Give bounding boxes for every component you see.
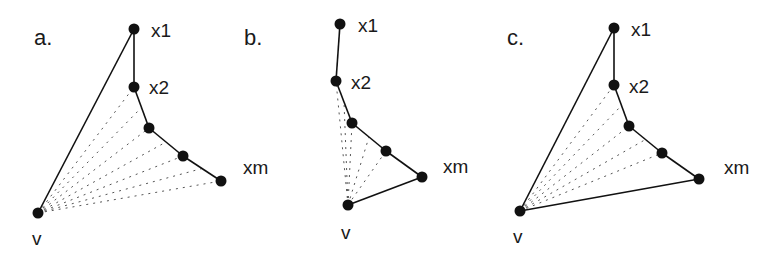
node-x1: [335, 19, 346, 30]
edge-x2-p3: [336, 81, 352, 123]
dotted-line-v-x2: [336, 81, 348, 205]
node-p4: [178, 151, 189, 162]
dotted-line-intermediate: [38, 169, 202, 214]
node-x1: [609, 23, 620, 34]
node-p4: [657, 148, 668, 159]
edge-v-xm: [520, 179, 699, 211]
node-label-v: v: [513, 226, 523, 247]
panel-a: x1x2xmva.: [32, 20, 268, 249]
node-label-x1: x1: [151, 20, 171, 41]
dotted-line-intermediate: [38, 108, 142, 214]
dotted-line-v-p3: [348, 123, 352, 205]
panel-label-a: a.: [34, 25, 52, 50]
node-x1: [129, 24, 140, 35]
node-p3: [144, 123, 155, 134]
dotted-line-intermediate: [344, 102, 348, 205]
node-label-xm: xm: [443, 156, 468, 177]
node-label-xm: xm: [243, 157, 268, 178]
node-xm: [216, 176, 227, 187]
edge-xm-v: [348, 177, 422, 205]
edge-x2-p3: [614, 85, 629, 126]
panel-b: x1x2xmvb.: [244, 15, 468, 243]
dotted-line-v-p4: [348, 151, 386, 205]
node-label-xm: xm: [724, 157, 749, 178]
node-label-v: v: [32, 228, 42, 249]
edge-v-x1: [520, 28, 614, 211]
node-p3: [624, 121, 635, 132]
dotted-line-v-p3: [520, 126, 629, 211]
edge-p3-p4: [149, 128, 183, 156]
edge-p4-xm: [183, 156, 221, 181]
edge-p3-p4: [629, 126, 662, 153]
node-v: [343, 200, 354, 211]
diagram-canvas: x1x2xmva. x1x2xmvb. x1x2xmvc.: [0, 0, 783, 254]
node-label-v: v: [341, 222, 351, 243]
node-p3: [347, 118, 358, 129]
node-label-x1: x1: [358, 15, 378, 36]
panel-label-b: b.: [244, 25, 262, 50]
edge-x2-p3: [134, 87, 149, 128]
node-x2: [129, 82, 140, 93]
node-x2: [331, 76, 342, 87]
edge-p4-xm: [662, 153, 699, 179]
edge-x1-x2: [336, 24, 340, 81]
node-xm: [694, 174, 705, 185]
dotted-line-v-x2: [38, 87, 134, 213]
panel-c: x1x2xmvc.: [507, 19, 749, 247]
node-label-x2: x2: [629, 76, 649, 97]
edge-p4-xm: [386, 151, 422, 177]
dotted-line-v-xm: [38, 181, 221, 213]
edge-v-x1: [38, 29, 134, 213]
node-v: [33, 208, 44, 219]
node-label-x2: x2: [149, 77, 169, 98]
node-v: [515, 206, 526, 217]
node-p4: [381, 146, 392, 157]
panel-label-c: c.: [507, 25, 524, 50]
edge-p3-p4: [352, 123, 386, 151]
node-label-x1: x1: [631, 19, 651, 40]
node-xm: [417, 172, 428, 183]
node-x2: [609, 80, 620, 91]
node-label-x2: x2: [351, 72, 371, 93]
